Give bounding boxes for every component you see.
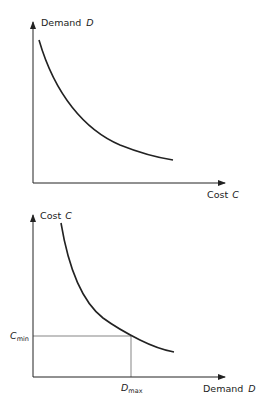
figure-canvas: DemandD CostC CostC DemandD Cmin Dmax	[0, 0, 268, 409]
bottom-cost-curve	[61, 223, 174, 352]
dmax-label: Dmax	[121, 382, 143, 395]
top-demand-curve	[39, 40, 173, 160]
top-y-label: DemandD	[41, 17, 94, 28]
bottom-chart: CostC DemandD Cmin Dmax	[10, 210, 256, 395]
top-x-label: CostC	[207, 189, 239, 200]
bottom-x-label: DemandD	[203, 383, 256, 394]
top-chart: DemandD CostC	[33, 17, 239, 200]
cmin-label: Cmin	[10, 330, 29, 343]
bottom-y-label: CostC	[40, 210, 72, 221]
